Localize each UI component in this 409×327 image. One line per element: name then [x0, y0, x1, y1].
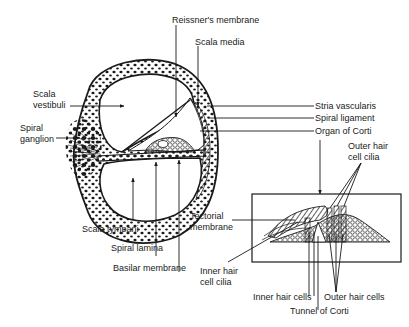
label-scala-media: Scala media — [195, 37, 245, 48]
label-inner-hair-cells: Inner hair cells — [253, 292, 312, 303]
label-tectorial-membrane: Tectorial membrane — [190, 211, 233, 233]
label-outer-hair-cell-cilia-line2: cell cilia — [348, 152, 388, 163]
label-basilar-membrane: Basilar membrane — [113, 263, 186, 274]
label-spiral-ganglion-line1: Spiral — [20, 123, 54, 134]
label-inner-hair-cell-cilia-line2: cell cilia — [200, 277, 238, 288]
label-outer-hair-cell-cilia: Outer hair cell cilia — [348, 141, 388, 163]
label-outer-hair-cell-cilia-line1: Outer hair — [348, 141, 388, 152]
label-spiral-lamina: Spiral lamina — [111, 243, 163, 254]
label-outer-hair-cells: Outer hair cells — [324, 292, 385, 303]
label-tectorial-membrane-line1: Tectorial — [190, 211, 233, 222]
label-scala-tympani: Scala tympani — [82, 224, 139, 235]
label-inner-hair-cell-cilia-line1: Inner hair — [200, 266, 238, 277]
label-spiral-ligament: Spiral ligament — [315, 113, 375, 124]
label-spiral-ganglion: Spiral ganglion — [20, 123, 54, 145]
label-stria-vascularis: Stria vascularis — [315, 101, 376, 112]
organ-of-corti-inset — [252, 194, 401, 262]
label-inner-hair-cell-cilia: Inner hair cell cilia — [200, 266, 238, 288]
label-spiral-ganglion-line2: ganglion — [20, 134, 54, 145]
label-scala-vestibuli-line1: Scala — [33, 89, 66, 100]
label-scala-vestibuli: Scala vestibuli — [33, 89, 66, 111]
label-tectorial-membrane-line2: membrane — [190, 222, 233, 233]
label-tunnel-of-corti: Tunnel of Corti — [290, 306, 349, 317]
label-organ-of-corti: Organ of Corti — [315, 126, 372, 137]
label-reissners-membrane: Reissner's membrane — [172, 15, 259, 26]
label-scala-vestibuli-line2: vestibuli — [33, 100, 66, 111]
